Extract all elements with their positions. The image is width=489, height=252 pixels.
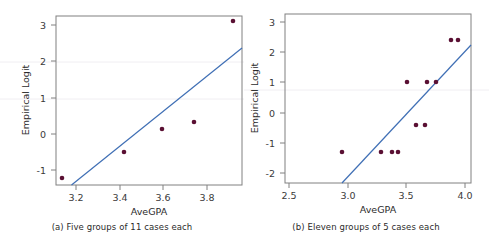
- panel-b-caption: (b) Eleven groups of 5 cases each: [244, 222, 488, 232]
- panel-b-ytick-label: -2: [266, 168, 275, 179]
- panel-a-ytick-label: -1: [37, 165, 46, 176]
- panel-a-plot: 3 2 1 0 -1 3.2 3.4 3.6 3.8 AveGPA Empiri…: [0, 0, 244, 216]
- data-point: [160, 127, 165, 132]
- data-point: [456, 38, 461, 43]
- data-point: [414, 123, 419, 128]
- panel-b-ytick-label: 0: [269, 108, 275, 119]
- panel-b-xtick-label: 4.0: [457, 190, 472, 201]
- panel-b-plot: 3 2 1 0 -1 -2 2.5 3.0 3.5 4.0 AveGPA Emp…: [244, 0, 489, 216]
- data-point: [379, 150, 384, 155]
- panel-b-xtick-label: 2.5: [281, 190, 296, 201]
- panel-a-y-axis-title: Empirical Logit: [20, 64, 31, 135]
- panel-a-ytick-label: 3: [40, 20, 46, 31]
- data-point: [405, 80, 410, 85]
- panel-a-ytick-label: 0: [40, 129, 46, 140]
- panel-b-x-axis-title: AveGPA: [360, 204, 397, 215]
- panel-b-background: [244, 0, 489, 216]
- panel-a-caption: (a) Five groups of 11 cases each: [0, 222, 244, 232]
- data-point: [425, 80, 430, 85]
- panel-a: 3 2 1 0 -1 3.2 3.4 3.6 3.8 AveGPA Empiri…: [0, 0, 244, 252]
- panel-a-ytick-label: 2: [40, 56, 46, 67]
- data-point: [60, 176, 65, 181]
- panel-b-xtick-label: 3.5: [398, 190, 413, 201]
- data-point: [396, 150, 401, 155]
- panel-b-ytick-label: 1: [269, 77, 275, 88]
- data-point: [122, 150, 127, 155]
- panel-b-ytick-label: 3: [269, 17, 275, 28]
- panel-a-x-axis-title: AveGPA: [131, 206, 168, 216]
- figure-container: 3 2 1 0 -1 3.2 3.4 3.6 3.8 AveGPA Empiri…: [0, 0, 489, 252]
- panel-a-xtick-label: 3.8: [199, 192, 214, 203]
- panel-a-xtick-label: 3.4: [112, 192, 127, 203]
- data-point: [434, 80, 439, 85]
- panel-b-ytick-label: 2: [269, 47, 275, 58]
- panel-a-xtick-label: 3.2: [68, 192, 83, 203]
- data-point: [449, 38, 454, 43]
- panel-a-xtick-label: 3.6: [155, 192, 170, 203]
- panel-b: 3 2 1 0 -1 -2 2.5 3.0 3.5 4.0 AveGPA Emp…: [244, 0, 488, 252]
- data-point: [192, 120, 197, 125]
- data-point: [231, 19, 236, 24]
- panel-a-background: [0, 0, 244, 216]
- panel-b-xtick-label: 3.0: [340, 190, 355, 201]
- data-point: [423, 123, 428, 128]
- data-point: [340, 150, 345, 155]
- data-point: [390, 150, 395, 155]
- panel-a-ytick-label: 1: [40, 93, 46, 104]
- panel-b-ytick-label: -1: [266, 138, 275, 149]
- panel-b-y-axis-title: Empirical Logit: [249, 62, 260, 133]
